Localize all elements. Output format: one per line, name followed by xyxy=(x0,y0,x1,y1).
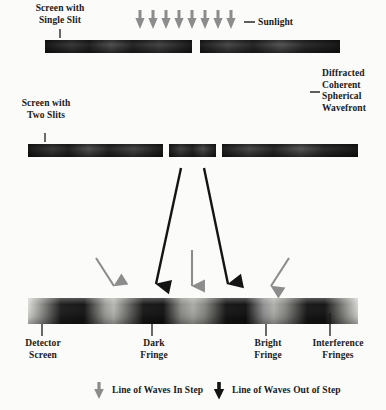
in-step-arrow xyxy=(96,258,114,286)
label-dark-line2: Fringe xyxy=(124,350,184,362)
label-sunlight: Sunlight xyxy=(258,17,293,29)
screen-two-slits xyxy=(28,144,358,157)
screen-single-slit xyxy=(45,40,340,53)
label-interference-line1: Interference xyxy=(296,338,380,350)
sunlight-arrow xyxy=(226,10,235,29)
label-bright-fringe: Bright Fringe xyxy=(238,338,298,361)
sunlight-arrow xyxy=(148,10,157,29)
result-arrow-group xyxy=(96,168,289,286)
legend-in-step-label: Line of Waves In Step xyxy=(112,385,203,397)
label-wavefront-line4: Wavefront xyxy=(322,103,384,115)
label-screen-two-slits-line1: Screen with xyxy=(3,98,89,110)
two-slit-wavefronts xyxy=(18,9,367,157)
sunlight-arrow xyxy=(135,10,144,29)
label-detector-screen: Detector Screen xyxy=(12,338,74,361)
sunlight-arrow xyxy=(213,10,222,29)
label-screen-single-slit: Screen with Single Slit xyxy=(12,3,108,26)
label-dark-line1: Dark xyxy=(124,338,184,350)
label-detector-line2: Screen xyxy=(12,350,74,362)
label-wavefront-line1: Diffracted xyxy=(322,68,384,80)
legend-out-of-step-label: Line of Waves Out of Step xyxy=(232,385,341,397)
label-dark-fringe: Dark Fringe xyxy=(124,338,184,361)
sunlight-arrow xyxy=(187,10,196,29)
left-slit-wavefronts xyxy=(18,9,314,157)
label-screen-two-slits-line2: Two Slits xyxy=(3,110,89,122)
legend-in-step-icon xyxy=(94,382,104,399)
sunlight-arrow xyxy=(161,10,170,29)
label-bright-line1: Bright xyxy=(238,338,298,350)
label-bright-line2: Fringe xyxy=(238,350,298,362)
sunlight-arrow xyxy=(174,10,183,29)
diagram-canvas: Screen with Single Slit Sunlight Diffrac… xyxy=(0,0,386,410)
out-of-step-arrow xyxy=(156,168,181,284)
out-of-step-arrow xyxy=(204,168,228,284)
label-detector-line1: Detector xyxy=(12,338,74,350)
label-screen-single-slit-line1: Screen with xyxy=(12,3,108,15)
label-screen-two-slits: Screen with Two Slits xyxy=(3,98,89,121)
label-interference-line2: Fringes xyxy=(296,350,380,362)
label-interference-fringes: Interference Fringes xyxy=(296,338,380,361)
label-diffracted-wavefront: Diffracted Coherent Spherical Wavefront xyxy=(322,68,384,114)
label-wavefront-line3: Spherical xyxy=(322,91,384,103)
detector-screen xyxy=(28,298,358,324)
sunlight-arrow-group xyxy=(135,10,235,29)
label-screen-single-slit-line2: Single Slit xyxy=(12,15,108,27)
legend-out-of-step-icon xyxy=(214,382,224,400)
sunlight-arrow xyxy=(200,10,209,29)
label-wavefront-line2: Coherent xyxy=(322,80,384,92)
in-step-arrow xyxy=(271,258,289,286)
